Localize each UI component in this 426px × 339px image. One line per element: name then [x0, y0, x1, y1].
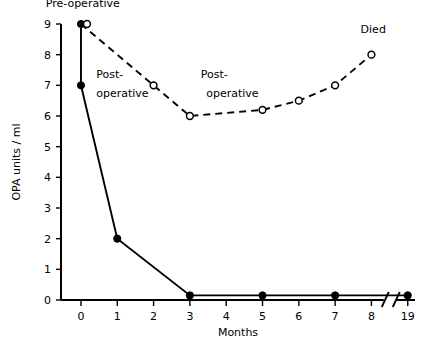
x-axis-tick-label: 3 — [186, 310, 193, 323]
y-axis-tick-label: 0 — [44, 294, 51, 307]
data-point-patient-solid — [259, 292, 266, 299]
chart-annotation: Died — [361, 23, 386, 36]
x-axis-title: Months — [218, 326, 258, 339]
x-axis-tick-label: 7 — [332, 310, 339, 323]
x-axis-tick-label: 4 — [223, 310, 230, 323]
opa-units-line-chart: 012345678901234567819 Pre-operativePost-… — [0, 0, 426, 339]
data-point-patient-solid — [77, 82, 84, 89]
data-point-patient-solid — [332, 292, 339, 299]
y-axis-tick-label: 8 — [44, 49, 51, 62]
y-axis-tick-label: 1 — [44, 263, 51, 276]
data-point-patient-solid — [186, 292, 193, 299]
data-point-patient-solid — [114, 235, 121, 242]
y-axis-tick-label: 9 — [44, 18, 51, 31]
data-point-patient-dashed — [332, 82, 339, 89]
chart-annotation: Post- — [96, 68, 123, 81]
y-axis-title: OPA units / ml — [10, 123, 23, 200]
y-axis-tick-label: 6 — [44, 110, 51, 123]
data-point-patient-dashed — [84, 21, 91, 28]
y-axis-tick-label: 7 — [44, 79, 51, 92]
chart-annotation: operative — [96, 87, 149, 100]
series-group — [81, 24, 408, 295]
x-axis-tick-label: 1 — [114, 310, 121, 323]
data-point-patient-solid — [404, 292, 411, 299]
data-point-patient-dashed — [150, 82, 157, 89]
data-point-patient-dashed — [186, 113, 193, 120]
x-axis-tick-label: 8 — [368, 310, 375, 323]
chart-annotation: Pre-operative — [46, 0, 120, 10]
x-axis-tick-label: 6 — [295, 310, 302, 323]
y-axis-tick-label: 3 — [44, 202, 51, 215]
x-axis-tick-label: 0 — [77, 310, 84, 323]
chart-annotation: Post- — [201, 68, 228, 81]
y-axis-tick-label: 4 — [44, 171, 51, 184]
data-point-patient-dashed — [259, 106, 266, 113]
chart-annotation: operative — [206, 87, 259, 100]
data-point-patient-dashed — [295, 97, 302, 104]
y-axis-tick-label: 2 — [44, 233, 51, 246]
chart-container: 012345678901234567819 Pre-operativePost-… — [0, 0, 426, 339]
x-axis-tick-label: 19 — [401, 310, 415, 323]
x-axis-tick-label: 2 — [150, 310, 157, 323]
y-axis-tick-label: 5 — [44, 141, 51, 154]
x-axis-tick-label: 5 — [259, 310, 266, 323]
data-point-patient-dashed — [368, 51, 375, 58]
